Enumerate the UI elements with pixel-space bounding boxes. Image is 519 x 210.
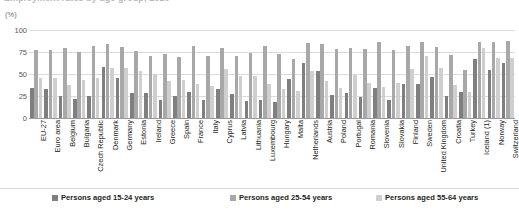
- bar-group: [358, 30, 372, 118]
- y-tick-label-75: 75: [3, 48, 27, 57]
- x-axis-label-cell: Cyprus: [215, 119, 229, 185]
- bar: [167, 81, 171, 118]
- bar: [210, 86, 214, 118]
- bar: [139, 71, 143, 118]
- legend-swatch-icon: [52, 195, 58, 201]
- bar: [245, 101, 249, 118]
- bar: [320, 44, 324, 118]
- bar: [110, 68, 114, 118]
- y-axis-unit-label: (%): [5, 10, 17, 19]
- bar-group: [129, 30, 143, 118]
- bar-group: [86, 30, 100, 118]
- bar: [82, 80, 86, 118]
- x-axis-label-cell: EU-27: [29, 119, 43, 185]
- bar: [492, 42, 496, 118]
- bar: [153, 74, 157, 118]
- x-axis-label-cell: Euro area: [43, 119, 57, 185]
- bar: [392, 50, 396, 118]
- bar-group: [186, 30, 200, 118]
- bar: [402, 84, 406, 118]
- bar: [249, 53, 253, 118]
- bar: [73, 99, 77, 118]
- y-axis-ticks: 1007550250: [0, 30, 27, 118]
- bar: [439, 68, 443, 118]
- x-axis-label-cell: Slovakia: [386, 119, 400, 185]
- bar: [406, 46, 410, 118]
- bar: [134, 51, 138, 118]
- legend-items: Persons aged 15-24 yearsPersons aged 25-…: [52, 193, 507, 202]
- x-axis-label-cell: Italy: [201, 119, 215, 185]
- x-axis-label-cell: Hungary: [272, 119, 286, 185]
- bar: [287, 79, 291, 118]
- bar-group: [344, 30, 358, 118]
- bar: [302, 63, 306, 118]
- legend-item[interactable]: Persons aged 25-54 years: [230, 193, 376, 202]
- x-axis-label-cell: Spain: [172, 119, 186, 185]
- bar: [277, 54, 281, 118]
- bar: [410, 69, 414, 118]
- bar: [116, 78, 120, 118]
- bar: [192, 46, 196, 118]
- bar-group: [415, 30, 429, 118]
- bar: [468, 92, 472, 118]
- x-axis-label-cell: Norway: [487, 119, 501, 185]
- x-axis-label-cell: Latvia: [229, 119, 243, 185]
- bar: [349, 48, 353, 118]
- bar: [359, 97, 363, 118]
- bar: [67, 85, 71, 118]
- x-axis-label-cell: Slovenia: [372, 119, 386, 185]
- bar-group: [143, 30, 157, 118]
- x-axis-labels: EU-27Euro areaBelgiumBulgariaCzech Repub…: [29, 119, 515, 185]
- bar: [239, 76, 243, 118]
- legend-item[interactable]: Persons aged 15-24 years: [52, 193, 230, 202]
- bar: [53, 78, 57, 118]
- x-axis-label-cell: Germany: [115, 119, 129, 185]
- legend-item[interactable]: Persons aged 55-64 years: [376, 193, 506, 202]
- bar: [92, 46, 96, 118]
- bar: [196, 84, 200, 118]
- chart-figure: Employment rates by age group, 2010 (%) …: [0, 0, 519, 210]
- bar-group: [472, 30, 486, 118]
- x-axis-label-cell: Finland: [401, 119, 415, 185]
- bar: [77, 52, 81, 118]
- bar: [430, 77, 434, 118]
- bar: [173, 96, 177, 118]
- x-axis-label-cell: Turkey: [458, 119, 472, 185]
- bar: [159, 100, 163, 118]
- chart-title-strip: Employment rates by age group, 2010: [0, 0, 519, 9]
- bar-group: [386, 30, 400, 118]
- bar: [187, 92, 191, 118]
- legend-swatch-icon: [376, 195, 382, 201]
- x-axis-label-cell: Belgium: [58, 119, 72, 185]
- bar: [292, 59, 296, 118]
- bar: [463, 70, 467, 118]
- bar-group: [501, 30, 515, 118]
- bar: [259, 100, 263, 118]
- bar: [102, 67, 106, 118]
- bar-group: [43, 30, 57, 118]
- bar: [39, 78, 43, 118]
- bar: [87, 96, 91, 118]
- bar: [459, 92, 463, 118]
- bar: [482, 48, 486, 118]
- x-axis-label-cell: Lithuania: [243, 119, 257, 185]
- bar: [130, 93, 134, 118]
- bar: [449, 55, 453, 118]
- x-axis-label-cell: United Kingdom: [429, 119, 443, 185]
- bar: [445, 96, 449, 118]
- y-tick-label-25: 25: [3, 92, 27, 101]
- y-tick-label-100: 100: [3, 26, 27, 35]
- bar: [353, 75, 357, 118]
- chart-legend: Persons aged 15-24 yearsPersons aged 25-…: [0, 188, 519, 210]
- bar-group: [401, 30, 415, 118]
- bar: [425, 56, 429, 118]
- legend-swatch-icon: [230, 195, 236, 201]
- bar: [387, 100, 391, 118]
- bar: [49, 50, 53, 118]
- bar: [34, 50, 38, 118]
- bar: [30, 88, 34, 118]
- bar-group: [201, 30, 215, 118]
- bar: [373, 88, 377, 118]
- bar: [296, 91, 300, 118]
- bar: [306, 43, 310, 118]
